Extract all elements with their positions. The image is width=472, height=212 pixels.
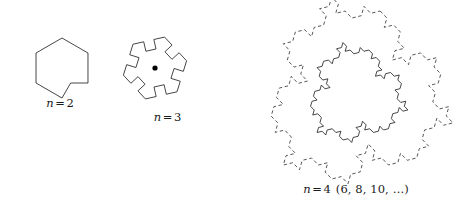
figure-panel-n2: n=2	[0, 0, 120, 212]
shape-n4-gosper-island-fractal	[240, 0, 472, 212]
label-n2-variable: n	[46, 96, 54, 110]
fractal-figure-root: n=2 n=3 n=4(6, 8, 10, …)	[0, 0, 472, 212]
figure-label-n2: n=2	[0, 96, 120, 110]
label-n4-operator: =	[311, 182, 324, 196]
figure-label-n4: n=4(6, 8, 10, …)	[240, 182, 472, 196]
figure-label-n3: n=3	[105, 110, 230, 124]
label-n3-value: 3	[174, 110, 181, 124]
label-n2-value: 2	[66, 96, 73, 110]
figure-panel-n3: n=3	[105, 0, 230, 212]
figure-panel-n4: n=4(6, 8, 10, …)	[240, 0, 472, 212]
label-n4-variable: n	[303, 182, 311, 196]
label-n4-value: 4	[323, 182, 330, 196]
label-n3-operator: =	[161, 110, 174, 124]
curve-n2	[36, 38, 88, 98]
center-dot-n3	[152, 65, 157, 70]
shape-n3-pinwheel-fractal	[105, 0, 230, 212]
label-n4-suffix: (6, 8, 10, …)	[331, 182, 409, 196]
label-n2-operator: =	[54, 96, 67, 110]
curve-n4-outer-dashed	[271, 0, 453, 184]
